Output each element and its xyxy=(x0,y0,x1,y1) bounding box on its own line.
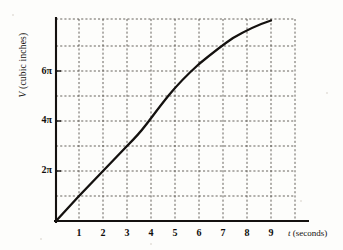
x-axis-title-variable: t xyxy=(288,228,291,238)
graph-figure: 2π 4π 6π 1 2 3 4 5 6 7 8 9 V (cubic inch… xyxy=(0,0,343,250)
scan-speck xyxy=(326,92,328,94)
x-axis-title-unit: (seconds) xyxy=(293,228,328,238)
y-tick-label-2pi: 2π xyxy=(26,165,52,175)
x-tick-label-6: 6 xyxy=(191,228,207,238)
x-tick-label-1: 1 xyxy=(71,228,87,238)
x-tick-label-3: 3 xyxy=(119,228,135,238)
y-axis-title: V (cubic inches) xyxy=(18,0,28,140)
scan-speck xyxy=(300,200,302,202)
x-tick-label-2: 2 xyxy=(95,228,111,238)
y-tick-label-4pi: 4π xyxy=(26,115,52,125)
scan-speck xyxy=(40,238,42,240)
x-tick-label-8: 8 xyxy=(239,228,255,238)
volume-curve xyxy=(56,21,271,222)
x-tick-label-5: 5 xyxy=(167,228,183,238)
y-axis-title-variable: V xyxy=(18,92,28,98)
scan-speck xyxy=(150,243,152,245)
y-axis-title-unit: (cubic inches) xyxy=(18,33,28,89)
y-tick-label-6pi: 6π xyxy=(26,66,52,76)
scan-speck xyxy=(12,14,14,16)
grid-lines xyxy=(56,19,295,221)
x-tick-label-9: 9 xyxy=(263,228,279,238)
x-axis-title: t (seconds) xyxy=(288,228,327,238)
x-tick-label-7: 7 xyxy=(215,228,231,238)
x-tick-label-4: 4 xyxy=(143,228,159,238)
coordinate-plane xyxy=(0,0,343,250)
